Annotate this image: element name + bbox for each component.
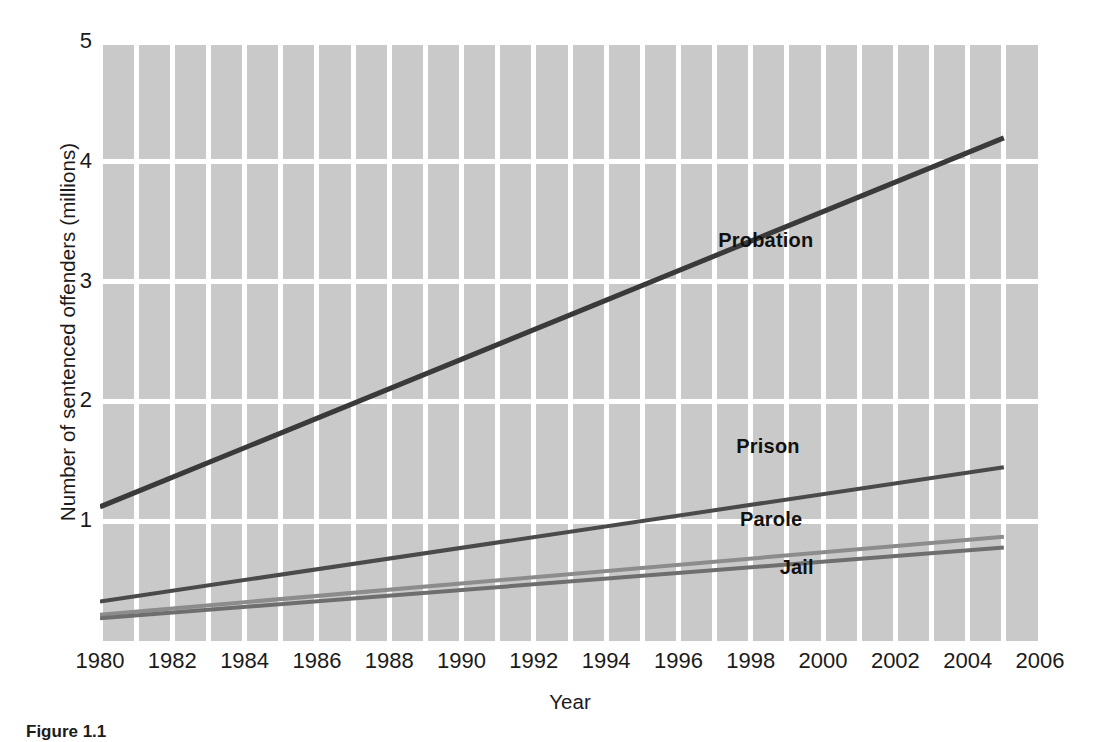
figure-caption: Figure 1.1	[26, 722, 106, 742]
series-lines	[100, 42, 1040, 641]
y-axis-tick-label: 4	[58, 150, 92, 172]
series-label-prison: Prison	[736, 435, 799, 458]
series-line-parole	[100, 537, 1004, 615]
y-axis-tick-label: 3	[58, 270, 92, 292]
series-label-probation: Probation	[718, 229, 813, 252]
y-axis-tick-label: 2	[58, 389, 92, 411]
y-axis-tick-label: 1	[58, 509, 92, 531]
series-line-probation	[100, 138, 1004, 507]
y-axis-tick-label: 5	[58, 30, 92, 52]
x-axis-title: Year	[100, 690, 1040, 714]
x-axis-tick-labels: 1980198219841986198819901992199419961998…	[0, 650, 1098, 682]
y-axis-tick-labels: 12345	[56, 0, 92, 739]
series-label-parole: Parole	[740, 508, 802, 531]
x-axis-tick-label: 2006	[995, 650, 1085, 672]
plot-area	[100, 42, 1040, 641]
series-label-jail: Jail	[780, 556, 814, 579]
